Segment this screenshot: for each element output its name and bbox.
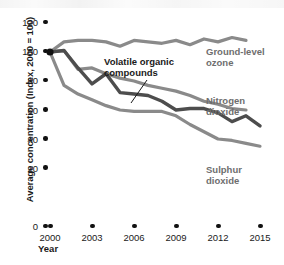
- origin-marker-dot: [46, 48, 53, 55]
- series-label-line-2: dioxide: [206, 107, 245, 118]
- chart-container: Average concentration (Index, 2000 = 100…: [0, 0, 284, 265]
- series-label-ground-level-ozone: Ground-level ozone: [206, 47, 265, 68]
- annotation-volatile-organic-compounds: Volatile organic compounds: [104, 56, 174, 78]
- annotation-line-1: Volatile organic: [104, 56, 174, 67]
- annotation-line-2: compounds: [104, 67, 174, 78]
- series-label-line-1: Ground-level: [206, 47, 265, 58]
- series-label-line-2: dioxide: [206, 176, 242, 187]
- series-label-line-1: Nitrogen: [206, 96, 245, 107]
- series-label-line-1: Sulphur: [206, 165, 242, 176]
- series-label-line-2: ozone: [206, 58, 265, 69]
- plot-area: [0, 0, 284, 265]
- series-label-nitrogen-dioxide: Nitrogen dioxide: [206, 96, 245, 117]
- series-label-sulphur-dioxide: Sulphur dioxide: [206, 165, 242, 186]
